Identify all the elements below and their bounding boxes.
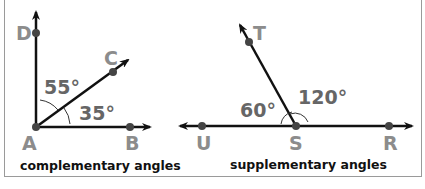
arc-CAB bbox=[64, 108, 70, 124]
angle-CAB-label: 35° bbox=[79, 102, 115, 124]
arc-DAC bbox=[40, 100, 58, 110]
point-S bbox=[292, 122, 300, 130]
point-A bbox=[32, 123, 40, 131]
label-R: R bbox=[383, 132, 398, 154]
angle-DAC-label: 55° bbox=[44, 76, 80, 98]
label-B: B bbox=[125, 132, 139, 154]
angle-TSR-label: 120° bbox=[298, 86, 347, 108]
label-S: S bbox=[289, 132, 303, 154]
point-B bbox=[126, 123, 134, 131]
point-T bbox=[245, 38, 253, 46]
label-T: T bbox=[253, 22, 266, 44]
label-C: C bbox=[104, 47, 118, 69]
angle-UST-label: 60° bbox=[240, 99, 276, 121]
point-C bbox=[109, 68, 117, 76]
point-R bbox=[385, 122, 393, 130]
complementary-caption: complementary angles bbox=[20, 158, 181, 173]
complementary-angles-figure: D C A B 55° 35° bbox=[16, 12, 150, 154]
label-A: A bbox=[22, 132, 37, 154]
supplementary-caption: supplementary angles bbox=[230, 157, 387, 172]
supplementary-angles-figure: T U S R 60° 120° bbox=[180, 22, 412, 154]
point-D bbox=[32, 29, 40, 37]
point-U bbox=[198, 122, 206, 130]
label-D: D bbox=[16, 22, 32, 44]
label-U: U bbox=[196, 132, 211, 154]
